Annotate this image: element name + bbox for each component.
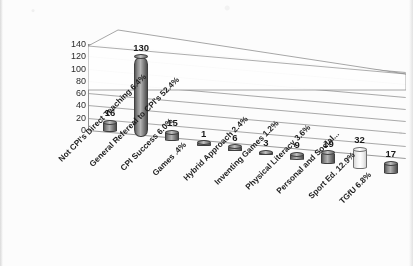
y-axis-tick: 100: [71, 65, 86, 74]
chart-page: 140120100806040200 16130151639193217 Not…: [0, 0, 413, 266]
bar-0[interactable]: 16: [103, 122, 117, 132]
bar-9[interactable]: 17: [384, 163, 398, 173]
bar-value-label: 32: [354, 135, 365, 145]
scan-edge-right: [409, 0, 413, 266]
bar-top-ellipse: [290, 152, 304, 157]
bar-5[interactable]: 3: [259, 152, 273, 155]
y-axis-tick: 20: [76, 114, 86, 123]
bar-4[interactable]: 6: [228, 147, 242, 151]
bar-top-ellipse: [353, 147, 367, 152]
y-axis-tick: 60: [76, 89, 86, 98]
y-axis-tick: 120: [71, 52, 86, 61]
bar-6[interactable]: 9: [290, 154, 304, 160]
bar-value-label: 17: [386, 149, 397, 159]
bar-8[interactable]: 32: [353, 149, 367, 169]
bar-7[interactable]: 19: [321, 153, 335, 165]
y-axis-tick: 40: [76, 101, 86, 110]
x-axis-label-9: TGfU 6.8%: [338, 170, 373, 205]
bar-3[interactable]: 1: [197, 143, 211, 146]
y-axis-tick: 140: [71, 40, 86, 49]
bar-2[interactable]: 15: [165, 132, 179, 141]
y-axis-tick-labels: 140120100806040200: [52, 18, 86, 130]
bar-top-ellipse: [384, 161, 398, 166]
bar-body: [353, 149, 367, 169]
scan-edge-left: [0, 0, 3, 266]
bar-value-label: 1: [201, 129, 206, 139]
x-axis-label-3: Games .4%: [150, 140, 187, 177]
bar-value-label: 130: [133, 43, 149, 53]
y-axis-tick: 80: [76, 77, 86, 86]
bar-top-ellipse: [259, 150, 273, 155]
